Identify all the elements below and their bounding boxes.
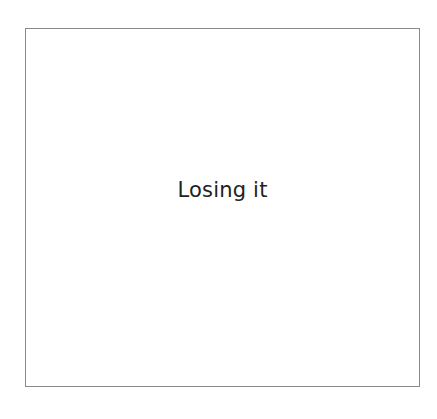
card-caption: Losing it xyxy=(26,176,419,204)
bordered-card: Losing it xyxy=(25,28,420,387)
